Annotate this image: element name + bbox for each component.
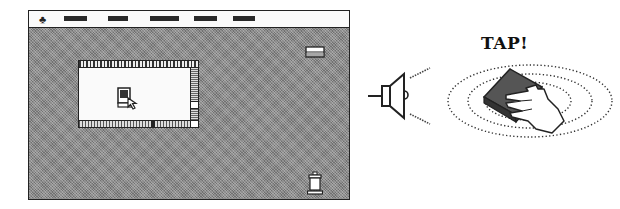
vertical-scroll-thumb[interactable] bbox=[191, 101, 198, 109]
speaker-icon bbox=[364, 58, 434, 130]
hand-tapping-device-icon bbox=[440, 55, 620, 150]
disk-icon[interactable] bbox=[305, 46, 325, 58]
horizontal-scroll-thumb[interactable] bbox=[151, 121, 155, 127]
computer-with-pointer-icon[interactable] bbox=[116, 86, 140, 110]
apple-menu-icon[interactable]: ♣ bbox=[39, 12, 46, 26]
tap-label: TAP! bbox=[481, 33, 528, 53]
resize-handle[interactable] bbox=[190, 120, 198, 127]
menu-bar: ♣ bbox=[29, 11, 349, 28]
vertical-scrollbar[interactable] bbox=[190, 68, 198, 120]
trash-icon[interactable] bbox=[307, 171, 323, 197]
menu-item-5[interactable] bbox=[233, 16, 255, 21]
mac-screen: ♣ bbox=[28, 10, 350, 200]
window-title-bar[interactable] bbox=[79, 61, 198, 68]
finder-window bbox=[78, 60, 199, 128]
menu-item-1[interactable] bbox=[64, 16, 87, 21]
menu-item-4[interactable] bbox=[194, 16, 217, 21]
menu-item-2[interactable] bbox=[108, 16, 128, 21]
horizontal-scrollbar[interactable] bbox=[79, 120, 191, 127]
menu-item-3[interactable] bbox=[150, 16, 179, 21]
